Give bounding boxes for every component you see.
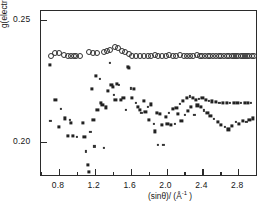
x-tick-label: 2.8 [231,180,243,190]
x-tick-major [59,169,60,175]
x-tick-minor [113,172,114,176]
x-tick-label: 1.2 [88,180,100,190]
y-tick-major [41,20,47,21]
x-axis-prefix: (sin [148,191,161,201]
x-tick-major [238,169,239,175]
x-tick-minor [77,172,78,176]
x-tick-minor [184,172,185,176]
axis-ticks [41,11,256,175]
x-axis-suffix: )/ (Å [166,191,182,201]
x-tick-major [95,169,96,175]
y-tick-label: 0.25 [13,14,30,24]
x-tick-minor [149,172,150,176]
x-tick-major [167,169,168,175]
x-tick-label: 1.6 [123,180,135,190]
y-axis-title: g(electrons/Å-1) [0,14,8,28]
y-tick-label: 0.20 [13,136,30,146]
y-axis-rest: (electrons/Å [0,0,9,23]
y-tick-major [41,142,47,143]
x-tick-major [202,169,203,175]
x-tick-minor [41,172,42,176]
y-axis-symbol: g [0,23,9,28]
x-tick-label: 2.4 [195,180,207,190]
figure-scatter-plot: g(electrons/Å-1) (sinθ)/ (Å-1 ) 0.81.21.… [0,0,266,209]
plot-frame [40,10,257,176]
x-axis-title: (sinθ)/ (Å-1 ) [148,190,192,201]
x-tick-minor [220,172,221,176]
x-tick-label: 2.0 [159,180,171,190]
x-axis-end: ) [187,191,192,201]
x-tick-label: 0.8 [52,180,64,190]
x-tick-major [131,169,132,175]
x-tick-minor [256,172,257,176]
